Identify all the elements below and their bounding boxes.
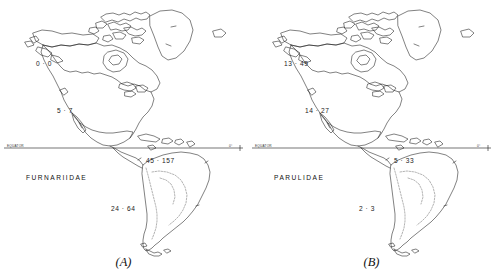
panel-b: EQUATOR 0° 13 · 49 14 · 27 5 · 33 2 · 3 … — [248, 0, 495, 280]
family-name-label: PARULIDAE — [274, 174, 324, 181]
count-north-america-west: 13 · 49 — [284, 60, 308, 67]
equator-left-label: EQUATOR — [255, 144, 272, 148]
family-name-label: FURNARIIDAE — [26, 174, 87, 181]
coastline-group — [273, 10, 474, 256]
panel-caption-a: (A) — [0, 255, 247, 270]
count-south-america-north: 5 · 33 — [394, 157, 414, 164]
coastline-group — [25, 10, 226, 256]
count-south-america-north: 45 · 157 — [146, 157, 175, 164]
panel-caption-b: (B) — [248, 255, 495, 270]
americas-map-b — [248, 0, 495, 260]
americas-map-a — [0, 0, 247, 260]
count-north-america-south: 5 · 7 — [57, 107, 73, 114]
equator-right-label: 0° — [229, 144, 232, 148]
count-north-america-south: 14 · 27 — [305, 107, 329, 114]
count-north-america-west: 0 · 0 — [36, 60, 52, 67]
figure-root: EQUATOR 0° 0 · 0 5 · 7 45 · 157 24 · 64 … — [0, 0, 495, 280]
equator-left-label: EQUATOR — [7, 144, 24, 148]
count-south-america-south: 24 · 64 — [111, 205, 135, 212]
panel-a: EQUATOR 0° 0 · 0 5 · 7 45 · 157 24 · 64 … — [0, 0, 247, 280]
equator-right-label: 0° — [477, 144, 480, 148]
count-south-america-south: 2 · 3 — [359, 205, 375, 212]
